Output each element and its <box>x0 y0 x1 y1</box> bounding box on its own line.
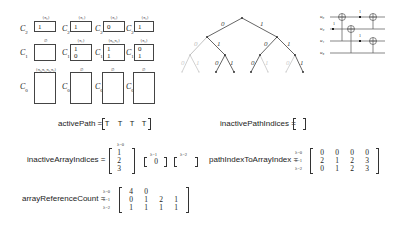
bracket-right <box>303 118 306 130</box>
bracket-right <box>164 157 167 167</box>
lambda-label: λ=0 <box>295 150 302 155</box>
bracket-left <box>174 157 177 167</box>
bracket-left <box>109 148 112 174</box>
bracket-right <box>148 118 151 130</box>
lambda-label: λ=2 <box>103 205 110 210</box>
matrix-cell: 1 <box>172 203 180 212</box>
bracket-left <box>293 118 296 130</box>
circuit-wires <box>0 0 399 70</box>
inactive-array-indices-label: inactiveArrayIndices = <box>27 155 105 164</box>
active-path-value: T <box>103 119 111 128</box>
matrix-cell: 0 <box>318 164 326 173</box>
array-reference-count-label: arrayReferenceCount = <box>22 194 105 203</box>
inactive-path-indices-label: inactivePathIndices = <box>220 119 296 128</box>
matrix-cell: 3 <box>363 164 371 173</box>
lambda-label: λ=2 <box>295 166 302 171</box>
matrix-cell: 1 <box>142 203 150 212</box>
matrix-cell: 1 <box>157 203 165 212</box>
lambda-label: λ=1 <box>295 158 302 163</box>
array-index-value: 0 <box>152 157 160 166</box>
lambda-label: λ=0 <box>117 142 124 147</box>
lambda-label: λ=1 <box>103 197 110 202</box>
matrix-cell: 2 <box>348 164 356 173</box>
lambda-label: λ=2 <box>180 152 187 157</box>
bracket-left <box>310 148 313 174</box>
bracket-right <box>132 148 135 174</box>
lambda-label: λ=0 <box>103 189 110 194</box>
bracket-right <box>186 187 189 213</box>
matrix-cell: 1 <box>127 203 135 212</box>
active-path-value: T <box>140 119 148 128</box>
matrix-cell: 1 <box>333 164 341 173</box>
bracket-right <box>195 157 198 167</box>
active-path-label: activePath = <box>58 119 102 128</box>
array-index-value: 3 <box>115 164 123 173</box>
bracket-left <box>119 187 122 213</box>
active-path-value: T <box>116 119 124 128</box>
bracket-right <box>376 148 379 174</box>
path-index-to-array-index-label: pathIndexToArrayIndex = <box>209 155 298 164</box>
bracket-left <box>144 157 147 167</box>
active-path-value: T <box>128 119 136 128</box>
